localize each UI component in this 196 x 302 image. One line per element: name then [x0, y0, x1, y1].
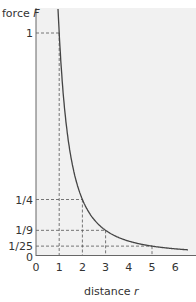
x-tick: 0	[33, 261, 40, 274]
y-tick-labels: 01/251/91/41	[8, 27, 33, 264]
x-axis-label: distance r	[84, 285, 140, 298]
y-tick: 1	[26, 27, 33, 40]
inverse-square-chart: 0123456 01/251/91/41 force F distance r	[0, 0, 196, 302]
x-tick: 3	[102, 261, 109, 274]
x-tick-labels: 0123456	[33, 261, 179, 274]
y-axis-label: force F	[2, 7, 40, 20]
x-tick: 1	[56, 261, 63, 274]
x-tick: 2	[79, 261, 86, 274]
x-tick: 6	[172, 261, 179, 274]
y-tick: 1/9	[15, 224, 33, 237]
y-tick: 1/25	[8, 240, 33, 253]
x-tick: 4	[125, 261, 132, 274]
x-tick: 5	[149, 261, 156, 274]
y-tick: 1/4	[15, 194, 33, 207]
